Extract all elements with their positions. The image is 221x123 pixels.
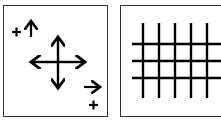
- plus-icon: [12, 28, 21, 37]
- plus-icon: [89, 101, 98, 110]
- grid-icon: [132, 23, 221, 98]
- move-cross-icon: [31, 37, 85, 88]
- diagram-canvas: [0, 0, 221, 123]
